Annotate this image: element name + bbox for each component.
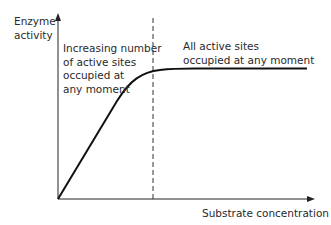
x-axis-label: Substrate concentration [202,207,329,221]
annotation-right: All active sites occupied at any moment [183,40,314,67]
y-axis-label-line: activity [14,29,50,43]
x-axis-arrow-icon [307,196,315,202]
annotation-line: All active sites [183,40,314,54]
annotation-line: occupied at [63,69,162,83]
annotation-line: any moment [63,83,162,97]
annotation-line: occupied at any moment [183,54,314,68]
y-axis-label-line: Enzyme [14,15,50,29]
y-axis-arrow-icon [55,13,61,21]
annotation-left: Increasing number of active sites occupi… [63,42,162,96]
y-axis-label: Enzyme activity [14,15,50,42]
annotation-line: Increasing number [63,42,162,56]
annotation-line: of active sites [63,56,162,70]
